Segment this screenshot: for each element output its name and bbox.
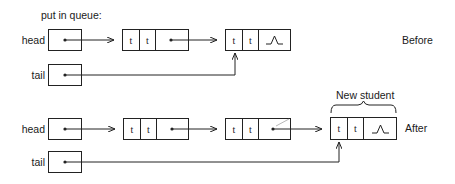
after-node1-next-arrow xyxy=(170,127,217,130)
nil-icon xyxy=(372,125,389,133)
pointer-arrows xyxy=(0,0,455,184)
nil-icon xyxy=(266,36,283,44)
before-tail-arrow xyxy=(63,53,235,77)
before-node1-next-arrow xyxy=(169,38,217,41)
before-head-arrow xyxy=(63,38,114,41)
after-tail-arrow xyxy=(63,142,339,164)
after-node2-next-arrow xyxy=(271,119,322,131)
new-student-brace xyxy=(331,101,396,113)
after-head-arrow xyxy=(63,127,115,130)
